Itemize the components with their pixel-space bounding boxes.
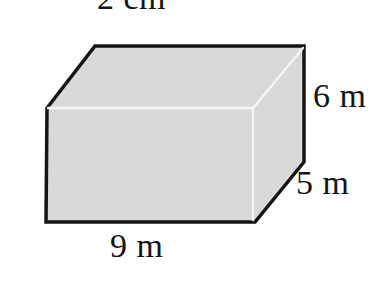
- height-dimension-label: 6 m: [313, 79, 366, 113]
- base-dimension-label: 9 m: [110, 229, 163, 263]
- figure-canvas: 2 cm 6 m 5 m 9 m: [0, 0, 377, 291]
- prism-outline: [46, 46, 304, 222]
- rectangular-prism-drawing: [0, 0, 377, 291]
- depth-dimension-label: 5 m: [296, 166, 349, 200]
- top-dimension-label: 2 cm: [97, 0, 166, 15]
